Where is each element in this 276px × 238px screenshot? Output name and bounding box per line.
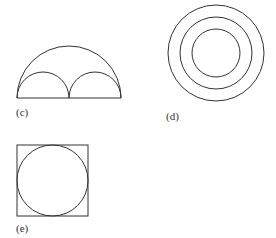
figure-d: [168, 5, 264, 101]
figure-c: [17, 46, 121, 98]
left-small-semicircle: [17, 72, 69, 98]
figure-d-label: (d): [166, 110, 179, 122]
right-small-semicircle: [69, 72, 121, 98]
figure-e-label: (e): [16, 222, 28, 234]
inner-circle: [192, 29, 240, 77]
diagram-canvas: [0, 0, 276, 238]
large-semicircle: [17, 46, 121, 98]
outer-circle: [168, 5, 264, 101]
figure-c-label: (c): [16, 106, 28, 118]
figure-e: [17, 145, 88, 216]
middle-circle: [180, 17, 252, 89]
inscribed-circle: [17, 145, 88, 216]
